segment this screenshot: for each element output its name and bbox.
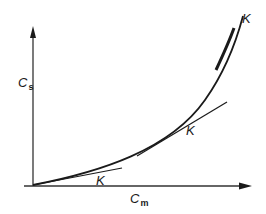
curve xyxy=(33,16,243,185)
curve-label-upper: K xyxy=(242,12,251,25)
tangent-line-middle xyxy=(137,102,227,156)
y-axis-label: Cs xyxy=(18,76,33,92)
x-axis-arrow-icon xyxy=(239,183,252,190)
x-axis-label: Cm xyxy=(130,192,148,208)
y-axis-arrow-icon xyxy=(30,26,36,38)
curve-label-middle: K xyxy=(186,124,195,137)
curve-label-lower: K xyxy=(96,174,105,187)
diagram: Cs Cm K K K xyxy=(0,0,266,214)
tangent-line-lower xyxy=(33,168,122,185)
diagram-canvas xyxy=(0,0,266,214)
